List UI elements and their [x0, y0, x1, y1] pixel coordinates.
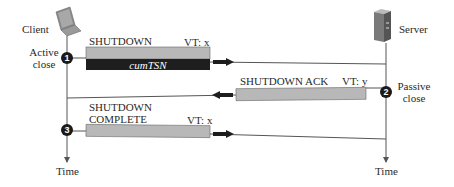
shutdown-label: SHUTDOWN [89, 35, 152, 47]
laptop-icon [56, 7, 81, 36]
step-number-2: 2 [380, 86, 392, 98]
server-tower-icon [374, 9, 391, 42]
step-number-1: 1 [61, 52, 73, 64]
shutdown-complete-label: SHUTDOWN COMPLETE [89, 101, 152, 125]
active-close-label: Active close [26, 46, 62, 70]
arrow-left-icon [212, 91, 233, 99]
shutdown-complete-message [67, 124, 386, 139]
active-close-line1: Active [26, 46, 62, 58]
shutdown-ack-label: SHUTDOWN ACK [240, 75, 328, 87]
active-close-line2: close [26, 58, 62, 70]
server-time-label: Time [375, 165, 398, 177]
step-number-3: 3 [61, 124, 73, 136]
shutdown-complete-line2: COMPLETE [89, 113, 152, 125]
arrow-right-icon [213, 58, 234, 66]
server-label: Server [399, 23, 428, 35]
client-time-label: Time [56, 165, 79, 177]
arrow-right-icon [213, 130, 234, 138]
passive-close-line2: close [392, 92, 436, 104]
client-label: Client [22, 23, 49, 35]
passive-close-label: Passive close [392, 80, 436, 104]
shutdown-complete-line1: SHUTDOWN [89, 101, 152, 113]
shutdown-ack-message [67, 87, 386, 100]
shutdown-vt-label: VT: x [184, 36, 209, 48]
shutdown-ack-vt-label: VT: y [342, 75, 367, 87]
cumtsn-field-label: cumTSN [86, 59, 210, 71]
passive-close-line1: Passive [392, 80, 436, 92]
shutdown-complete-vt-label: VT: x [187, 114, 212, 126]
